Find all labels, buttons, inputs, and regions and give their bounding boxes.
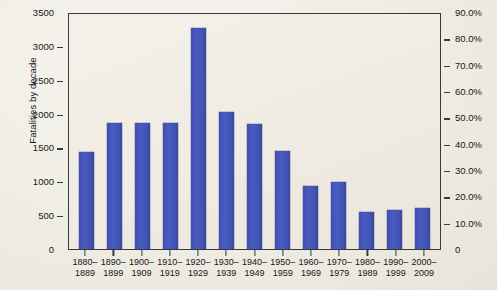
y-tick-label-right: 20.0% <box>455 193 482 203</box>
bar-2000–2009 <box>415 208 430 249</box>
x-tick-label-line1: 1890– <box>99 257 127 268</box>
x-tick-label-line2: 1949 <box>240 268 268 279</box>
y-tick-label-right: 90.0% <box>455 8 482 18</box>
y-tick-mark-left <box>57 216 63 217</box>
x-tick-label-line1: 1990– <box>382 257 410 268</box>
x-tick-1980–1989: 1980–1989 <box>353 250 381 290</box>
bar-1980–1989 <box>359 212 374 249</box>
y-tick-mark-left <box>57 81 63 82</box>
bar-1910–1919 <box>163 123 178 249</box>
y-tick-label-right: 60.0% <box>455 87 482 97</box>
y-tick-label-right: 10.0% <box>455 219 482 229</box>
bar-slot <box>353 14 381 249</box>
x-tick-mark <box>254 250 255 256</box>
y-tick-mark-right <box>444 66 450 67</box>
x-tick-label-line2: 1939 <box>212 268 240 279</box>
bar-series <box>69 14 440 249</box>
x-tick-mark <box>367 250 368 256</box>
x-tick-label-line1: 1880– <box>71 257 99 268</box>
x-tick-label-line1: 1930– <box>212 257 240 268</box>
x-tick-label-line2: 1919 <box>156 268 184 279</box>
y-tick-mark-right <box>444 118 450 119</box>
bar-slot <box>100 14 128 249</box>
x-tick-1900–1909: 1900–1909 <box>127 250 155 290</box>
x-tick-mark <box>310 250 311 256</box>
x-tick-label-line1: 1970– <box>325 257 353 268</box>
x-tick-1930–1939: 1930–1939 <box>212 250 240 290</box>
x-tick-label-line2: 1999 <box>382 268 410 279</box>
bar-slot <box>297 14 325 249</box>
bar-slot <box>72 14 100 249</box>
x-tick-label-line1: 1960– <box>297 257 325 268</box>
bar-slot <box>212 14 240 249</box>
x-tick-label-line1: 1940– <box>240 257 268 268</box>
bar-slot <box>269 14 297 249</box>
y-tick-mark-right <box>444 145 450 146</box>
x-tick-mark <box>197 250 198 256</box>
x-tick-label-line1: 1980– <box>353 257 381 268</box>
bar-1970–1979 <box>331 182 346 249</box>
x-tick-label-line1: 1900– <box>127 257 155 268</box>
x-tick-label-line2: 1899 <box>99 268 127 279</box>
bar-slot <box>128 14 156 249</box>
bar-1990–1999 <box>387 210 402 249</box>
bar-1920–1929 <box>191 28 206 249</box>
x-tick-label-line2: 1929 <box>184 268 212 279</box>
x-tick-label-line1: 1920– <box>184 257 212 268</box>
x-tick-1880–1889: 1880–1889 <box>71 250 99 290</box>
x-tick-mark <box>423 250 424 256</box>
y-tick-mark-right <box>444 224 450 225</box>
y-tick-mark-right <box>444 197 450 198</box>
bar-1930–1939 <box>219 112 234 249</box>
x-tick-1990–1999: 1990–1999 <box>382 250 410 290</box>
y-axis-right: 010.0%20.0%30.0%40.0%50.0%60.0%70.0%80.0… <box>443 13 497 250</box>
x-tick-1920–1929: 1920–1929 <box>184 250 212 290</box>
y-tick-mark-left <box>57 182 63 183</box>
bar-slot <box>381 14 409 249</box>
bar-1940–1949 <box>247 124 262 249</box>
bar-slot <box>184 14 212 249</box>
x-tick-mark <box>169 250 170 256</box>
y-tick-mark-left <box>57 115 63 116</box>
bar-1950–1959 <box>275 151 290 249</box>
x-tick-mark <box>395 250 396 256</box>
y-tick-label-left: 2500 <box>33 76 54 86</box>
bar-1890–1899 <box>107 123 122 249</box>
x-tick-1890–1899: 1890–1899 <box>99 250 127 290</box>
x-tick-1910–1919: 1910–1919 <box>156 250 184 290</box>
y-tick-mark-right <box>444 39 450 40</box>
bar-slot <box>325 14 353 249</box>
plot-area <box>68 13 441 250</box>
y-axis-left: 0500100015002000250030003500 <box>24 13 64 250</box>
y-tick-label-left: 3500 <box>33 8 54 18</box>
y-tick-label-left: 3000 <box>33 42 54 52</box>
y-tick-mark-right <box>444 92 450 93</box>
y-tick-label-left: 1000 <box>33 178 54 188</box>
y-tick-label-left: 500 <box>38 211 54 221</box>
y-tick-label-left: 0 <box>49 245 54 255</box>
y-tick-mark-left <box>57 148 63 149</box>
x-tick-label-line2: 1979 <box>325 268 353 279</box>
x-tick-label-line2: 2009 <box>410 268 438 279</box>
y-tick-mark-left <box>57 47 63 48</box>
x-tick-mark <box>85 250 86 256</box>
y-tick-label-left: 1500 <box>33 144 54 154</box>
bar-1900–1909 <box>135 123 150 249</box>
y-tick-label-right: 30.0% <box>455 166 482 176</box>
x-axis: 1880–18891890–18991900–19091910–19191920… <box>68 250 441 290</box>
x-tick-mark <box>113 250 114 256</box>
bar-1960–1969 <box>303 186 318 249</box>
x-tick-1970–1979: 1970–1979 <box>325 250 353 290</box>
x-tick-label-line1: 1950– <box>269 257 297 268</box>
y-tick-label-right: 0 <box>455 245 460 255</box>
x-tick-2000–2009: 2000–2009 <box>410 250 438 290</box>
bar-slot <box>156 14 184 249</box>
x-tick-label-line2: 1989 <box>353 268 381 279</box>
bar-1880–1889 <box>79 152 94 249</box>
y-tick-label-right: 40.0% <box>455 140 482 150</box>
x-tick-label-line2: 1889 <box>71 268 99 279</box>
x-tick-mark <box>141 250 142 256</box>
y-tick-label-right: 80.0% <box>455 35 482 45</box>
x-tick-1960–1969: 1960–1969 <box>297 250 325 290</box>
x-tick-label-line1: 2000– <box>410 257 438 268</box>
